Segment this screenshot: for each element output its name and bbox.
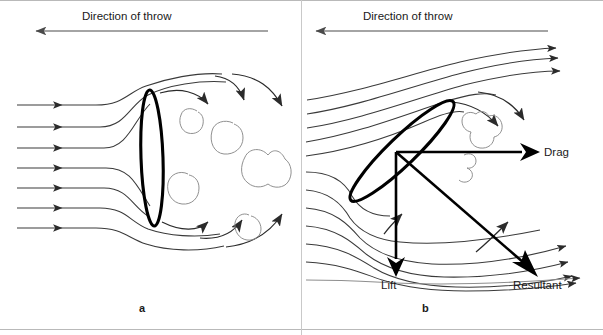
- panel-divider: [301, 0, 302, 335]
- figure-airflow-discus: Direction of throw Direction of throw Dr…: [0, 0, 603, 335]
- resultant-vector: [396, 152, 538, 277]
- lift-label: Lift: [381, 279, 396, 291]
- panel-label-b: b: [422, 302, 429, 314]
- turbulent-eddies-b: [459, 112, 502, 183]
- direction-of-throw-label-a: Direction of throw: [82, 10, 171, 22]
- drag-label: Drag: [544, 146, 569, 158]
- wake-streamlines-a: [160, 74, 282, 247]
- streamlines-lower-b: [306, 172, 580, 291]
- streamlines-inflow-a: [17, 105, 62, 228]
- turbulent-eddies-a: [168, 109, 292, 240]
- direction-of-throw-label-b: Direction of throw: [363, 10, 452, 22]
- panel-label-a: a: [139, 302, 145, 314]
- discus-edge-on: [139, 90, 166, 227]
- resultant-label: Resultant: [513, 279, 562, 291]
- force-vectors: [387, 143, 540, 277]
- drag-vector: [396, 143, 540, 161]
